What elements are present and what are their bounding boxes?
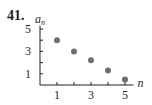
data-point <box>71 48 77 54</box>
y-tick-label: 5 <box>25 22 31 36</box>
data-point <box>105 67 111 73</box>
y-tick-label: 3 <box>25 44 31 58</box>
data-point <box>54 37 60 43</box>
scatter-chart: 135135nan <box>0 0 152 105</box>
y-tick-label: 1 <box>25 67 31 81</box>
y-axis-label: an <box>35 12 45 27</box>
axes <box>40 26 134 85</box>
x-tick-label: 5 <box>122 88 128 102</box>
x-axis-label: n <box>138 76 144 90</box>
data-points <box>54 37 128 82</box>
data-point <box>122 76 128 82</box>
axis-labels: 135135nan <box>25 12 144 102</box>
x-tick-label: 1 <box>54 88 60 102</box>
data-point <box>88 57 94 63</box>
x-tick-label: 3 <box>88 88 94 102</box>
